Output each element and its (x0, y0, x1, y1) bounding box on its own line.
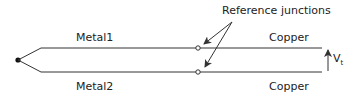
voltage-symbol: V (333, 52, 341, 65)
pointer-arrow-bottom (205, 22, 232, 67)
reference-junctions-label: Reference junctions (222, 4, 331, 17)
metal2-label: Metal2 (76, 80, 113, 93)
voltage-subscript: t (341, 59, 344, 67)
thermocouple-diagram: Metal1 Metal2 Reference junctions Copper… (0, 0, 356, 98)
copper-bottom-label: Copper (269, 80, 309, 93)
copper-top-label: Copper (269, 31, 309, 44)
measuring-junction (15, 48, 41, 72)
voltage-label: Vt (333, 52, 343, 67)
metal1-label: Metal1 (76, 31, 113, 44)
reference-junction-top (196, 46, 200, 50)
pointer-arrow-top (204, 22, 232, 44)
reference-junction-bottom (196, 70, 200, 74)
